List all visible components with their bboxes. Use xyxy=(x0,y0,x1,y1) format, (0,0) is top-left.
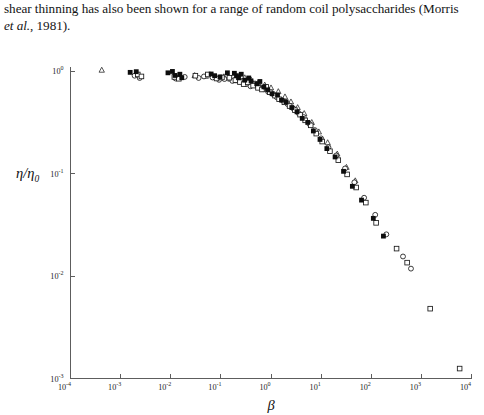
x-tick-label: 104 xyxy=(460,381,471,392)
y-axis-title-eta2: η xyxy=(27,165,34,181)
data-point-filled-square xyxy=(239,72,244,77)
paragraph-line-1: shear thinning has also been shown for a… xyxy=(4,0,482,17)
data-point-filled-square xyxy=(275,92,280,97)
paragraph-line-2: et al., 1981). xyxy=(4,17,482,34)
data-point-filled-square xyxy=(381,234,386,239)
data-point-open-square xyxy=(139,74,144,79)
data-point-open-square xyxy=(457,366,462,371)
data-point-open-square xyxy=(227,75,232,80)
data-point-filled-square xyxy=(295,109,300,114)
data-point-filled-square xyxy=(166,70,171,75)
data-point-filled-square xyxy=(324,146,329,151)
data-point-filled-square xyxy=(359,198,364,203)
x-tick-label: 103 xyxy=(410,381,421,392)
data-point-filled-square xyxy=(218,75,223,80)
y-axis-ticks: 10010-110-210-3 xyxy=(50,65,75,383)
y-tick-label: 10-2 xyxy=(50,270,63,281)
data-point-filled-square xyxy=(300,116,305,121)
x-tick-label: 100 xyxy=(259,381,270,392)
y-tick-label: 10-1 xyxy=(50,168,63,179)
data-point-filled-square xyxy=(371,216,376,221)
data-point-filled-square xyxy=(257,79,262,84)
data-point-filled-square xyxy=(134,69,139,74)
axes-group xyxy=(71,67,472,379)
paragraph-citation-rest: , 1981). xyxy=(30,18,70,33)
data-point-filled-square xyxy=(179,75,184,80)
data-point-filled-square xyxy=(333,155,338,160)
plot-canvas: 10-410-310-210-1100101102103104 10010-11… xyxy=(0,45,484,415)
data-point-open-square xyxy=(364,200,369,205)
data-point-filled-square xyxy=(311,129,316,134)
data-point-open-circle xyxy=(401,254,406,259)
data-point-open-triangle xyxy=(325,140,330,145)
x-tick-label: 101 xyxy=(310,381,321,392)
y-axis-title: η/η0 xyxy=(16,165,39,184)
data-markers-group xyxy=(99,67,462,371)
data-point-filled-square xyxy=(341,169,346,174)
x-tick-label: 10-1 xyxy=(208,381,221,392)
y-axis-title-eta1: η xyxy=(16,165,23,181)
data-point-open-square xyxy=(428,306,433,311)
x-tick-label: 10-3 xyxy=(108,381,121,392)
data-point-filled-square xyxy=(284,99,289,104)
data-point-filled-square xyxy=(212,73,217,78)
data-point-open-triangle xyxy=(99,67,104,72)
body-paragraph: shear thinning has also been shown for a… xyxy=(4,0,482,34)
data-point-filled-square xyxy=(173,73,178,78)
data-point-filled-square xyxy=(350,184,355,189)
data-point-open-square xyxy=(374,221,379,226)
data-point-filled-square xyxy=(128,70,133,75)
data-point-filled-square xyxy=(225,70,230,75)
data-point-filled-square xyxy=(249,79,254,84)
x-tick-label: 10-2 xyxy=(158,381,171,392)
data-point-open-square xyxy=(193,73,198,78)
y-tick-label: 100 xyxy=(52,65,63,76)
paragraph-citation-italic: et al. xyxy=(4,18,30,33)
y-axis-title-sub: 0 xyxy=(34,174,39,184)
x-axis-ticks: 10-410-310-210-1100101102103104 xyxy=(58,374,472,392)
data-point-filled-square xyxy=(270,91,275,96)
data-point-filled-square xyxy=(279,98,284,103)
figure-scatter-plot: 10-410-310-210-1100101102103104 10010-11… xyxy=(0,45,484,415)
data-point-open-circle xyxy=(409,266,414,271)
x-axis-title: β xyxy=(266,397,275,413)
data-point-open-square xyxy=(405,260,410,265)
x-tick-label: 102 xyxy=(360,381,371,392)
data-point-filled-square xyxy=(289,105,294,110)
data-point-filled-square xyxy=(318,137,323,142)
data-point-filled-square xyxy=(305,120,310,125)
page-root: shear thinning has also been shown for a… xyxy=(0,0,484,415)
x-tick-label: 10-4 xyxy=(58,381,71,392)
data-point-open-square xyxy=(394,246,399,251)
data-point-filled-square xyxy=(265,87,270,92)
y-axis-title-text: η/η0 xyxy=(16,165,39,184)
